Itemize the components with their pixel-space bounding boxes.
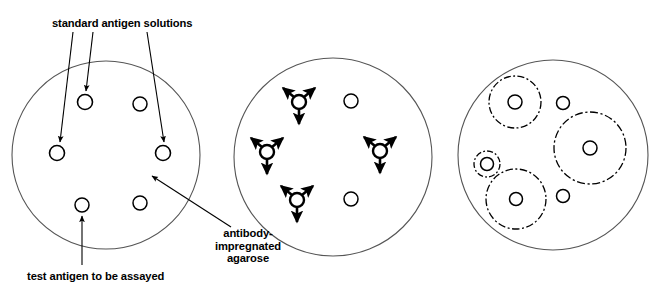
well-mid-right-3 [583,141,597,155]
leader-arrow-to-mid-right [147,32,164,142]
well-bottom-right-1 [133,196,147,210]
well-bottom-left-3 [510,193,523,206]
diffusion-arrow-up-right [272,138,283,147]
diffusion-arrow-up-left [283,88,294,97]
agarose-label-line-3: agarose [200,252,296,265]
diagram-canvas [0,0,663,293]
well-bottom-left-2 [290,193,304,207]
label-test-antigen-to-be-assayed: test antigen to be assayed [27,270,164,283]
leader-arrow-to-agarose [152,176,231,227]
agarose-label-line-2: impregnated [200,240,296,253]
diffusion-arrow-up-right [302,186,313,195]
well-top-right-1 [133,97,147,111]
plate-outline-1 [12,61,200,249]
well-top-left-1 [78,95,93,110]
diffusing-well-mid-left-2 [251,138,283,174]
diffusing-well-mid-right-2 [364,137,396,173]
well-mid-left-3 [481,158,494,171]
diffusing-well-bottom-left-2 [281,186,313,222]
well-mid-left-2 [260,145,274,159]
label-standard-antigen-solutions: standard antigen solutions [52,17,192,30]
plate-outline-3 [458,60,648,250]
panel-3-precipitin-rings [458,60,648,250]
diffusing-well-top-left-2 [283,88,315,124]
precipitin-ring-bottom-left [486,169,546,229]
well-mid-left-1 [50,146,65,161]
well-top-right-2 [344,94,358,108]
well-mid-right-1 [156,146,171,161]
diffusion-arrow-up-left [364,137,375,146]
panel-1-loading [12,32,231,265]
diffusion-arrow-up-left [281,186,292,195]
well-top-right-3 [557,97,570,110]
diffusion-arrow-up-right [304,88,315,97]
well-bottom-right-3 [557,190,570,203]
label-antibody-impregnated-agarose: antibody- impregnated agarose [200,227,296,265]
diffusion-arrow-up-right [385,137,396,146]
well-bottom-right-2 [344,192,358,206]
precipitin-ring-mid-left [474,151,500,177]
well-top-left-3 [508,95,522,109]
well-mid-right-2 [373,144,387,158]
figure-root: standard antigen solutions test antigen … [0,0,663,293]
agarose-label-line-1: antibody- [200,227,296,240]
well-top-left-2 [292,95,306,109]
precipitin-ring-mid-right [554,112,626,184]
diffusion-arrow-up-left [251,138,262,147]
well-bottom-left-1 [75,198,89,212]
leader-arrow-to-mid-left [60,32,73,142]
precipitin-ring-top-left [489,76,541,128]
